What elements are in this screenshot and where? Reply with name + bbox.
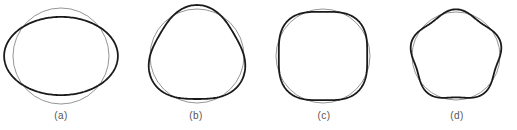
panel-label-c: (c) (304, 110, 344, 121)
deformed-shape-mode-2 (4, 17, 118, 95)
reference-circle (412, 12, 500, 100)
deformed-shape-mode-3 (149, 5, 246, 99)
panel-a (4, 8, 118, 104)
reference-circle (13, 8, 109, 104)
panel-b (149, 5, 246, 103)
panel-label-d: (d) (437, 110, 477, 121)
deformed-shape-mode-5 (411, 9, 502, 98)
reference-circle (276, 9, 370, 103)
panel-label-b: (b) (176, 110, 216, 121)
deformed-shape-mode-4 (279, 12, 367, 100)
panel-d (411, 9, 502, 100)
panel-label-a: (a) (41, 110, 81, 121)
reference-circle (150, 9, 244, 103)
panel-c (276, 9, 370, 103)
